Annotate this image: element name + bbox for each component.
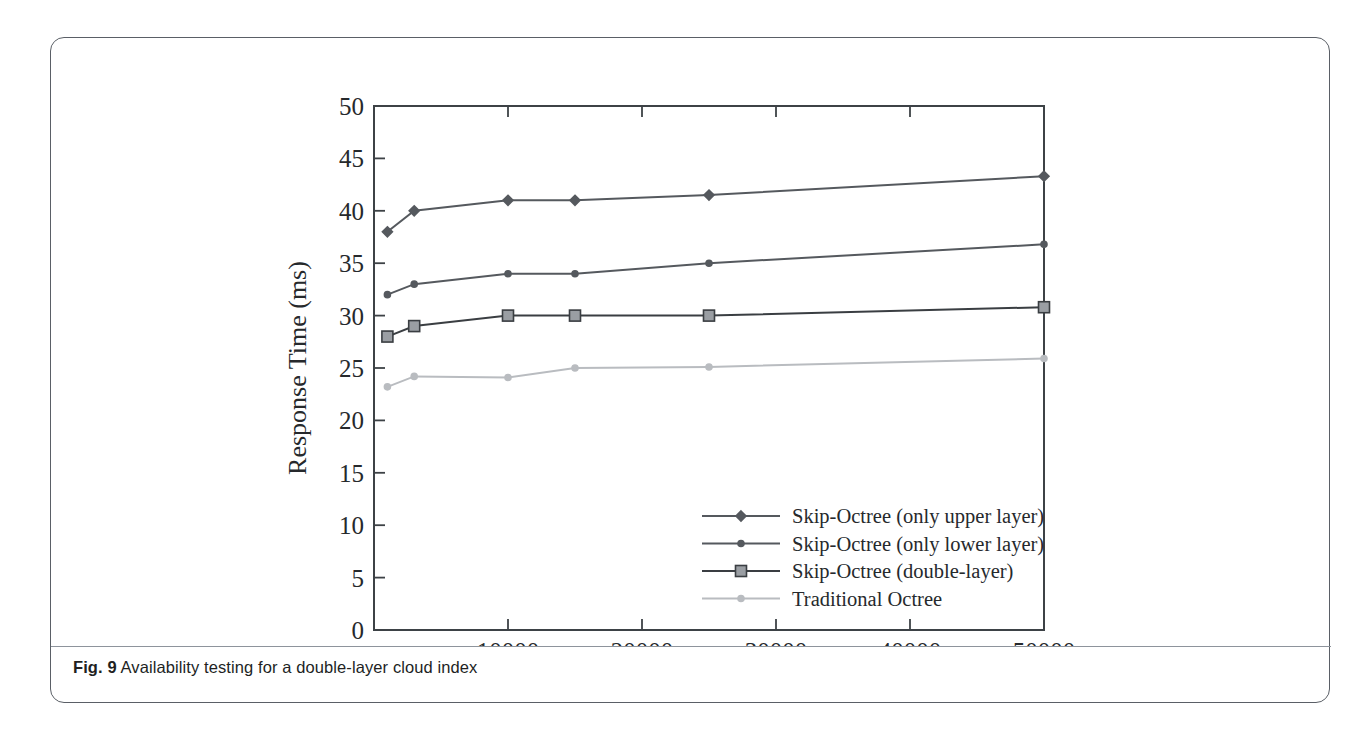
y-tick-label: 45 xyxy=(339,145,364,172)
series-marker xyxy=(704,310,715,321)
series-marker xyxy=(409,321,420,332)
chart-area: 0 5 10 15 20 25 30 35 40 45 50 xyxy=(51,38,1331,646)
y-tick-label: 30 xyxy=(339,303,364,330)
legend-label: Skip-Octree (double-layer) xyxy=(792,560,1013,583)
y-tick-label: 25 xyxy=(339,355,364,382)
series-marker xyxy=(505,374,511,380)
legend-label: Traditional Octree xyxy=(792,588,942,610)
x-tick-label: 50000 xyxy=(1013,638,1076,646)
series-line xyxy=(387,307,1044,336)
series-marker xyxy=(382,331,393,342)
y-axis-tick-labels: 0 5 10 15 20 25 30 35 40 45 50 xyxy=(339,93,364,644)
series-marker xyxy=(572,271,578,277)
series-line xyxy=(387,359,1044,387)
series-marker xyxy=(384,292,390,298)
x-axis-tick-labels: 10000 20000 30000 40000 50000 xyxy=(477,638,1076,646)
series-marker xyxy=(1039,302,1050,313)
legend-label: Skip-Octree (only upper layer) xyxy=(792,505,1044,528)
legend-swatch-marker xyxy=(738,596,744,602)
y-tick-label: 20 xyxy=(339,407,364,434)
x-tick-label: 40000 xyxy=(879,638,942,646)
series-line xyxy=(387,244,1044,294)
legend-label: Skip-Octree (only lower layer) xyxy=(792,533,1044,556)
x-tick-label: 30000 xyxy=(745,638,808,646)
series-marker xyxy=(706,364,712,370)
series-marker xyxy=(572,365,578,371)
x-tick-label: 20000 xyxy=(611,638,674,646)
y-axis-title: Response Time (ms) xyxy=(283,261,312,475)
caption-label: Fig. 9 xyxy=(73,658,117,676)
y-tick-label: 0 xyxy=(352,617,365,644)
series-marker xyxy=(411,281,417,287)
series-marker xyxy=(570,195,580,205)
legend-swatch-marker xyxy=(736,566,747,577)
series-marker xyxy=(1041,241,1047,247)
series-marker xyxy=(411,373,417,379)
y-tick-label: 15 xyxy=(339,460,364,487)
series-marker xyxy=(503,310,514,321)
data-series-group xyxy=(382,171,1050,390)
y-tick-label: 40 xyxy=(339,198,364,225)
series-marker xyxy=(1039,171,1049,181)
series-marker xyxy=(570,310,581,321)
legend-swatch-marker xyxy=(738,541,744,547)
caption-text: Availability testing for a double-layer … xyxy=(120,658,477,676)
series-marker xyxy=(384,384,390,390)
y-axis-ticks xyxy=(374,158,385,630)
y-tick-label: 35 xyxy=(339,250,364,277)
x-tick-label: 10000 xyxy=(477,638,540,646)
figure-caption: Fig. 9 Availability testing for a double… xyxy=(73,658,1303,677)
series-marker xyxy=(505,271,511,277)
legend-swatch-marker xyxy=(736,511,746,521)
series-marker xyxy=(704,190,714,200)
series-marker xyxy=(706,260,712,266)
y-tick-label: 10 xyxy=(339,512,364,539)
chart-legend: Skip-Octree (only upper layer)Skip-Octre… xyxy=(702,505,1044,610)
y-tick-label: 5 xyxy=(352,565,365,592)
series-line xyxy=(387,176,1044,232)
series-marker xyxy=(503,195,513,205)
line-chart: 0 5 10 15 20 25 30 35 40 45 50 xyxy=(51,38,1331,646)
y-tick-label: 50 xyxy=(339,93,364,120)
figure-container: 0 5 10 15 20 25 30 35 40 45 50 xyxy=(50,37,1330,703)
series-marker xyxy=(1041,356,1047,362)
caption-divider xyxy=(51,646,1331,647)
